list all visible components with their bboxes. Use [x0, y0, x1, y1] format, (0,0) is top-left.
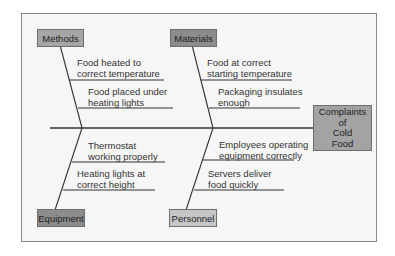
cause-text-line: Food heated to [77, 57, 160, 68]
cause-methods-2: Food placed under heating lights [88, 86, 167, 108]
cause-equipment-2: Heating lights at correct height [77, 168, 145, 190]
cause-text-line: food quickly [208, 179, 271, 190]
effect-text-line: Food [314, 139, 371, 150]
cause-personnel-2: Servers deliver food quickly [208, 168, 271, 190]
category-label: Methods [42, 33, 78, 44]
cause-text-line: equipment correctly [219, 150, 308, 161]
cause-text-line: correct height [77, 179, 145, 190]
category-personnel: Personnel [169, 209, 217, 227]
cause-text-line: Food at correct [207, 57, 292, 68]
cause-text-line: Servers deliver [208, 168, 271, 179]
cause-text-line: enough [218, 97, 303, 108]
category-label: Equipment [38, 213, 83, 224]
effect-box: Complaints of Cold Food [313, 105, 372, 151]
cause-equipment-1: Thermostat working properly [88, 140, 158, 162]
cause-materials-1: Food at correct starting temperature [207, 57, 292, 79]
category-label: Materials [174, 33, 213, 44]
effect-text-line: Complaints [314, 107, 371, 118]
cause-personnel-1: Employees operating equipment correctly [219, 139, 308, 161]
cause-methods-1: Food heated to correct temperature [77, 57, 160, 79]
category-materials: Materials [170, 29, 217, 47]
category-label: Personnel [172, 213, 215, 224]
cause-text-line: Food placed under [88, 86, 167, 97]
cause-text-line: working properly [88, 151, 158, 162]
cause-materials-2: Packaging insulates enough [218, 86, 303, 108]
effect-text-line: Cold [314, 128, 371, 139]
category-equipment: Equipment [37, 209, 85, 227]
cause-text-line: correct temperature [77, 68, 160, 79]
cause-text-line: heating lights [88, 97, 167, 108]
category-methods: Methods [37, 29, 84, 47]
cause-text-line: Employees operating [219, 139, 308, 150]
cause-text-line: Packaging insulates [218, 86, 303, 97]
cause-text-line: starting temperature [207, 68, 292, 79]
cause-text-line: Heating lights at [77, 168, 145, 179]
cause-text-line: Thermostat [88, 140, 158, 151]
